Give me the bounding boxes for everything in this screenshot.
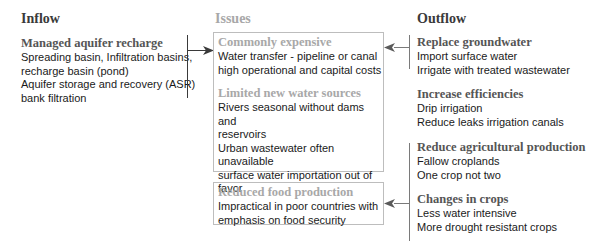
arrow-left-icon	[383, 198, 395, 209]
inflow-heading: Inflow	[21, 11, 60, 27]
outflow-section-increase-efficiencies: Increase efficiencies Drip irrigation Re…	[417, 87, 564, 129]
issues-heading: Issues	[215, 11, 251, 27]
outflow-arrow-line-bottom	[394, 203, 410, 204]
section-title: Reduced food production	[218, 185, 383, 200]
outflow-section-reduce-agricultural-production: Reduce agricultural production Fallow cr…	[417, 140, 586, 182]
section-title: Reduce agricultural production	[417, 140, 586, 155]
arrow-left-icon	[383, 42, 395, 53]
outflow-section-replace-groundwater: Replace groundwater Import surface water…	[417, 35, 570, 77]
inflow-section-managed-aquifer-recharge: Managed aquifer recharge Spreading basin…	[21, 36, 195, 105]
list-item: More drought resistant crops	[417, 221, 557, 235]
outflow-section-changes-in-crops: Changes in crops Less water intensive Mo…	[417, 192, 557, 234]
list-item: Impractical in poor countries with	[218, 200, 383, 214]
section-title: Replace groundwater	[417, 35, 570, 50]
outflow-bracket-bottom	[409, 143, 410, 241]
list-item: Fallow croplands	[417, 155, 586, 169]
list-item: emphasis on food security	[218, 214, 383, 228]
inflow-bracket	[187, 35, 188, 98]
list-item: Spreading basin, Infiltration basins,	[21, 51, 195, 65]
list-item: surface water importation out of	[218, 169, 383, 183]
list-item: Aquifer storage and recovery (ASR)	[21, 78, 195, 92]
list-item: Irrigate with treated wastewater	[417, 64, 570, 78]
list-item: Less water intensive	[417, 207, 557, 221]
outflow-bracket-top	[409, 35, 410, 69]
issues-box-food-production: Reduced food production Impractical in p…	[213, 182, 384, 225]
list-item: reservoirs	[218, 128, 383, 142]
list-item: One crop not two	[417, 169, 586, 183]
section-title: Limited new water sources	[218, 86, 383, 101]
list-item: Rivers seasonal without dams and	[218, 101, 383, 128]
section-title: Increase efficiencies	[417, 87, 564, 102]
list-item: Drip irrigation	[417, 102, 564, 116]
list-item: Import surface water	[417, 50, 570, 64]
section-title: Commonly expensive	[218, 35, 383, 50]
outflow-heading: Outflow	[417, 11, 466, 27]
list-item: bank filtration	[21, 92, 195, 106]
section-title: Managed aquifer recharge	[21, 36, 195, 51]
list-item: Water transfer - pipeline or canal	[218, 50, 383, 64]
issues-box-costs-sources: Commonly expensive Water transfer - pipe…	[213, 32, 384, 172]
section-title: Changes in crops	[417, 192, 557, 207]
outflow-arrow-line-top	[394, 47, 410, 48]
list-item: Reduce leaks irrigation canals	[417, 116, 564, 130]
list-item: high operational and capital costs	[218, 64, 383, 78]
list-item: recharge basin (pond)	[21, 65, 195, 79]
list-item: Urban wastewater often unavailable	[218, 142, 383, 169]
